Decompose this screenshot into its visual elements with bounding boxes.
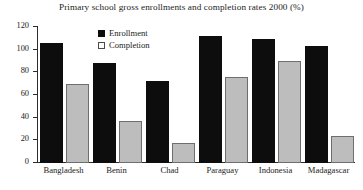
bar-paraguay-enrollment bbox=[199, 36, 222, 163]
legend-label-enrollment: Enrollment bbox=[109, 29, 148, 38]
y-axis-tick bbox=[33, 162, 37, 163]
y-axis-line bbox=[37, 26, 38, 163]
y-tick-label-100: 100 bbox=[1, 45, 29, 53]
y-tick-label-40: 40 bbox=[1, 113, 29, 121]
y-axis-tick bbox=[33, 26, 37, 27]
bar-bangladesh-enrollment bbox=[40, 43, 63, 163]
bar-indonesia-enrollment bbox=[252, 39, 275, 163]
bar-bangladesh-completion bbox=[66, 84, 89, 163]
bar-indonesia-completion bbox=[278, 61, 301, 163]
y-tick-label-0: 0 bbox=[1, 158, 29, 166]
bar-madagascar-enrollment bbox=[305, 46, 328, 163]
y-tick-label-120: 120 bbox=[1, 22, 29, 30]
y-axis-tick bbox=[33, 139, 37, 140]
y-tick-label-80: 80 bbox=[1, 67, 29, 75]
y-axis-tick bbox=[33, 71, 37, 72]
bar-madagascar-completion bbox=[331, 136, 354, 163]
bar-chad-enrollment bbox=[146, 81, 169, 163]
y-tick-label-20: 20 bbox=[1, 135, 29, 143]
y-axis-tick bbox=[33, 117, 37, 118]
x-axis-label-madagascar: Madagascar bbox=[296, 165, 361, 175]
y-axis-tick-labels: 120 100 80 60 40 20 0 bbox=[0, 26, 33, 163]
bar-benin-enrollment bbox=[93, 63, 116, 163]
y-tick-label-60: 60 bbox=[1, 90, 29, 98]
chart-title: Primary school gross enrollments and com… bbox=[0, 2, 363, 12]
bar-chart: Primary school gross enrollments and com… bbox=[0, 0, 363, 190]
legend-item-completion: Completion bbox=[98, 40, 208, 51]
bar-chad-completion bbox=[172, 143, 195, 163]
y-axis-tick bbox=[33, 94, 37, 95]
x-axis-category-labels: BangladeshBeninChadParaguayIndonesiaMada… bbox=[37, 165, 355, 181]
chart-legend: Enrollment Completion bbox=[98, 28, 208, 52]
bar-benin-completion bbox=[119, 121, 142, 163]
legend-item-enrollment: Enrollment bbox=[98, 28, 208, 39]
bar-paraguay-completion bbox=[225, 77, 248, 163]
y-axis-tick bbox=[33, 49, 37, 50]
legend-swatch-completion-icon bbox=[98, 42, 105, 49]
legend-label-completion: Completion bbox=[109, 41, 150, 50]
legend-swatch-enrollment-icon bbox=[98, 30, 105, 37]
